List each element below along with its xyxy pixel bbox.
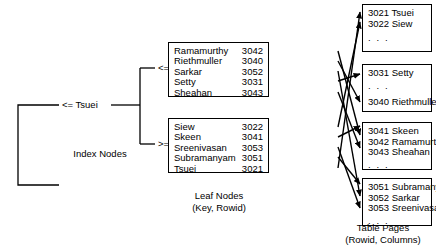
table-page-row: 3031 Setty — [368, 68, 427, 79]
leaf-node-box-1: Ramamurthy 3042 Riethmuller 3040 Sarkar … — [168, 42, 269, 97]
leaf-rowid: 3043 — [236, 88, 263, 98]
table-pages-caption: Table Pages (Rowid, Columns) — [330, 222, 436, 245]
branch-connectors — [140, 68, 155, 144]
arrow-3022 — [338, 22, 360, 127]
arrow-3053 — [338, 147, 360, 208]
arrow-3021 — [338, 12, 360, 168]
table-page-row: 3041 Skeen — [368, 126, 427, 137]
arrow-3041 — [338, 126, 360, 137]
leaf-nodes-caption: Leaf Nodes (Key, Rowid) — [158, 190, 280, 213]
leaf-entry: Sheahan 3043 — [174, 88, 263, 98]
leaf-nodes-caption-line1: Leaf Nodes — [158, 190, 280, 202]
table-page-ellipsis: . . . — [368, 160, 427, 171]
table-page-ellipsis: . . . — [368, 33, 427, 44]
leaf-nodes-caption-line2: (Key, Rowid) — [158, 202, 280, 214]
table-page-row: 3040 Riethmuller — [368, 97, 427, 108]
table-page-row: 3022 Siew — [368, 19, 427, 30]
table-page-row: 3053 Sreenivasan — [368, 203, 427, 214]
index-root-label: <= Tsuei — [62, 99, 98, 110]
leaf-key: Sheahan — [174, 88, 212, 98]
leaf-rowid: 3021 — [236, 164, 263, 174]
table-page-box-4: 3051 Subramanyam 3052 Sarkar 3053 Sreeni… — [362, 178, 432, 226]
arrow-3051 — [338, 157, 360, 184]
table-pages-caption-line2: (Rowid, Columns) — [330, 234, 436, 245]
table-page-box-3: 3041 Skeen 3042 Ramamurthy 3043 Sheahan … — [362, 122, 432, 170]
index-region-bracket — [18, 105, 59, 185]
arrow-3031 — [338, 74, 360, 81]
table-page-row: 3021 Tsuei — [368, 8, 427, 19]
arrow-3042 — [338, 51, 360, 135]
table-page-row: 3043 Sheahan — [368, 147, 427, 158]
table-page-box-2: 3031 Setty . . . 3040 Riethmuller — [362, 64, 432, 112]
arrow-3052 — [338, 71, 360, 196]
leaf-node-box-2: Siew 3022 Skeen 3041 Sreenivasan 3053 Su… — [168, 118, 269, 173]
index-structure-diagram: <= Tsuei <= Sheahan >= Siew Index Nodes … — [0, 0, 436, 245]
arrow-3043 — [338, 92, 360, 148]
arrow-3040 — [338, 61, 360, 102]
table-pages-caption-line1: Table Pages — [330, 222, 436, 234]
index-nodes-caption: Index Nodes — [40, 148, 160, 160]
leaf-entry: Tsuei 3021 — [174, 164, 263, 174]
leaf-key: Tsuei — [174, 164, 196, 174]
rowid-pointer-arrows — [338, 12, 360, 208]
table-page-row: 3051 Subramanyam — [368, 182, 427, 193]
table-page-box-1: 3021 Tsuei 3022 Siew . . . — [362, 4, 432, 52]
table-page-ellipsis: . . . — [368, 81, 427, 92]
